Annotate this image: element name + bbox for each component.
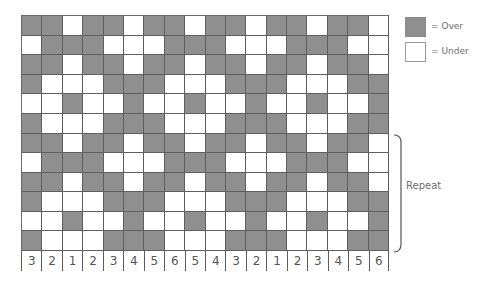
cell-over [348,192,368,212]
cell-over [267,192,287,212]
cell-over [307,153,327,173]
cell-over [369,94,389,114]
cell-over [83,153,103,173]
cell-over [144,75,164,95]
cell-over [185,36,205,56]
cell-over [104,134,124,154]
cell-over [83,36,103,56]
cell-under [246,173,266,193]
cell-over [226,231,246,251]
cell-under [246,153,266,173]
cell-over [63,153,83,173]
cell-over [226,55,246,75]
legend-label-over: = Over [431,21,463,31]
cell-under [246,36,266,56]
cell-over [287,55,307,75]
cell-over [206,134,226,154]
cell-over [104,173,124,193]
cell-over [185,153,205,173]
cell-over [348,114,368,134]
cell-under [63,192,83,212]
cell-under [206,192,226,212]
cell-over [369,192,389,212]
cell-under [267,212,287,232]
cell-under [348,153,368,173]
cell-under [63,134,83,154]
column-label: 2 [41,251,61,271]
cell-under [124,153,144,173]
cell-under [287,75,307,95]
legend-swatch-under [405,42,426,62]
cell-over [226,134,246,154]
cell-over [104,16,124,36]
cell-over [22,192,42,212]
column-label: 5 [144,251,164,271]
cell-over [348,75,368,95]
cell-over [328,173,348,193]
cell-under [185,134,205,154]
cell-over [267,114,287,134]
cell-under [144,94,164,114]
cell-over [165,16,185,36]
cell-under [185,16,205,36]
cell-over [22,173,42,193]
cell-over [83,173,103,193]
cell-over [124,231,144,251]
cell-under [144,36,164,56]
legend-swatch-over [405,17,426,37]
column-label: 3 [225,251,245,271]
cell-over [348,55,368,75]
cell-under [287,231,307,251]
cell-under [287,94,307,114]
cell-over [267,75,287,95]
column-label: 3 [307,251,327,271]
column-label: 4 [205,251,225,271]
cell-over [22,16,42,36]
cell-under [206,212,226,232]
cell-over [246,94,266,114]
cell-over [267,55,287,75]
cell-under [369,55,389,75]
cell-under [328,231,348,251]
cell-over [348,134,368,154]
cell-over [144,192,164,212]
cell-under [206,94,226,114]
cell-over [165,36,185,56]
cell-over [165,134,185,154]
repeat-bracket-icon [393,134,407,253]
cell-over [369,231,389,251]
cell-under [83,94,103,114]
cell-over [206,55,226,75]
cell-under [42,212,62,232]
cell-over [22,114,42,134]
cell-over [104,231,124,251]
cell-over [307,94,327,114]
cell-under [307,16,327,36]
cell-under [185,231,205,251]
cell-under [165,75,185,95]
cell-under [42,75,62,95]
cell-over [42,134,62,154]
column-label: 5 [185,251,205,271]
cell-under [42,94,62,114]
cell-over [307,36,327,56]
cell-under [165,192,185,212]
cell-over [369,114,389,134]
cell-under [328,94,348,114]
cell-over [144,16,164,36]
cell-over [246,114,266,134]
cell-over [165,55,185,75]
cell-over [287,36,307,56]
cell-under [42,192,62,212]
cell-over [246,192,266,212]
cell-under [63,75,83,95]
cell-over [42,55,62,75]
cell-over [246,75,266,95]
cell-under [369,36,389,56]
cell-under [226,94,246,114]
cell-under [328,192,348,212]
column-label: 2 [82,251,102,271]
cell-over [144,231,164,251]
cell-over [226,114,246,134]
cell-under [124,173,144,193]
